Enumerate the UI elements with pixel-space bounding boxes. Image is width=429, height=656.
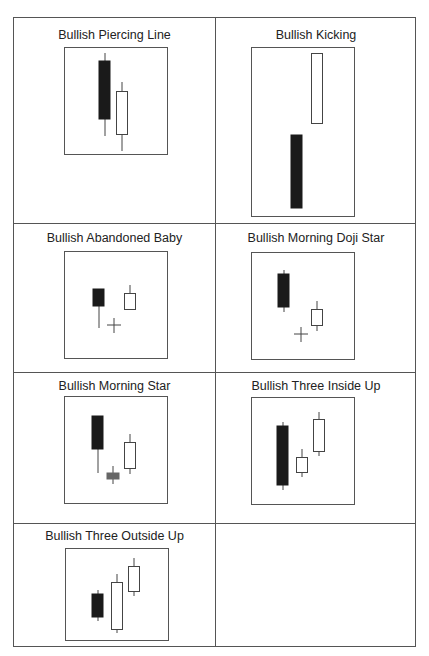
- candlestick-chart-morning-doji-star: [251, 252, 355, 360]
- candlestick-chart-three-outside-up: [65, 548, 169, 641]
- pattern-cell-three-outside-up: Bullish Three Outside Up: [14, 523, 215, 648]
- cropped-heading-text: [0, 0, 140, 4]
- pattern-cell-kicking: Bullish Kicking: [215, 18, 417, 223]
- pattern-title: Bullish Abandoned Baby: [14, 231, 215, 245]
- candlestick-pattern-table: Bullish Piercing Line Bullish Kicking Bu…: [13, 17, 416, 647]
- candlestick-chart-piercing-line: [64, 47, 168, 155]
- pattern-cell-morning-doji-star: Bullish Morning Doji Star: [215, 223, 417, 372]
- candlestick-icon: [252, 398, 356, 506]
- pattern-cell-abandoned-baby: Bullish Abandoned Baby: [14, 223, 215, 372]
- pattern-title: Bullish Kicking: [215, 28, 417, 42]
- candlestick-icon: [65, 397, 169, 505]
- candlestick-icon: [65, 48, 169, 156]
- pattern-cell-three-inside-up: Bullish Three Inside Up: [215, 372, 417, 523]
- pattern-title: Bullish Morning Star: [14, 379, 215, 393]
- pattern-cell-morning-star: Bullish Morning Star: [14, 372, 215, 523]
- candlestick-icon: [252, 253, 356, 361]
- candlestick-icon: [65, 252, 169, 360]
- pattern-cell-piercing-line: Bullish Piercing Line: [14, 18, 215, 223]
- empty-cell: [215, 523, 417, 648]
- candlestick-chart-kicking: [251, 47, 355, 217]
- candlestick-icon: [66, 549, 170, 642]
- pattern-title: Bullish Piercing Line: [14, 28, 215, 42]
- pattern-title: Bullish Three Inside Up: [215, 379, 417, 393]
- candlestick-icon: [252, 48, 356, 218]
- candlestick-chart-morning-star: [64, 396, 168, 504]
- pattern-title: Bullish Morning Doji Star: [215, 231, 417, 245]
- candlestick-chart-abandoned-baby: [64, 251, 168, 359]
- pattern-title: Bullish Three Outside Up: [14, 529, 215, 543]
- candlestick-chart-three-inside-up: [251, 397, 355, 505]
